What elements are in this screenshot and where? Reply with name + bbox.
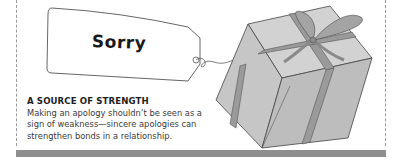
gift-illustration xyxy=(0,0,397,168)
tag-label: Sorry xyxy=(92,31,147,53)
callout-body: Making an apology shouldn’t be seen as a… xyxy=(27,108,202,142)
callout-heading: A SOURCE OF STRENGTH xyxy=(27,96,149,106)
gift-box-icon xyxy=(216,6,372,148)
infographic-panel: Sorry A SOURCE OF STRENGTH Making an apo… xyxy=(0,0,397,168)
bottom-divider-bar xyxy=(16,150,386,157)
